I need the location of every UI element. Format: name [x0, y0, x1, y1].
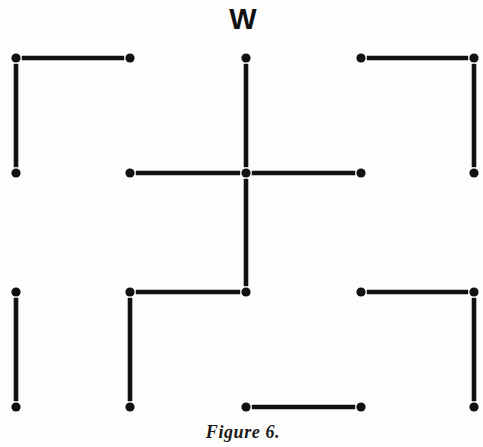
grid-dot — [125, 168, 134, 177]
label-w: W — [229, 5, 256, 34]
figure-caption: Figure 6. — [206, 423, 280, 441]
figure-canvas: W Figure 6. — [0, 0, 483, 447]
grid-dot — [125, 287, 134, 296]
grid-dot — [356, 53, 365, 62]
grid-dot — [241, 53, 250, 62]
grid-dot — [241, 168, 250, 177]
grid-dot — [11, 168, 20, 177]
grid-dot — [125, 53, 134, 62]
grid-dot — [469, 402, 478, 411]
grid-dot — [125, 402, 134, 411]
matchstick-diagram — [0, 0, 483, 447]
grid-dot — [469, 53, 478, 62]
grid-dot — [469, 168, 478, 177]
grid-dot — [356, 168, 365, 177]
grid-dot — [356, 287, 365, 296]
grid-dot — [11, 402, 20, 411]
grid-dot — [11, 53, 20, 62]
grid-dot — [241, 287, 250, 296]
sticks-layer — [16, 58, 474, 407]
grid-dot — [469, 287, 478, 296]
grid-dot — [241, 402, 250, 411]
grid-dot — [11, 287, 20, 296]
grid-dot — [356, 402, 365, 411]
